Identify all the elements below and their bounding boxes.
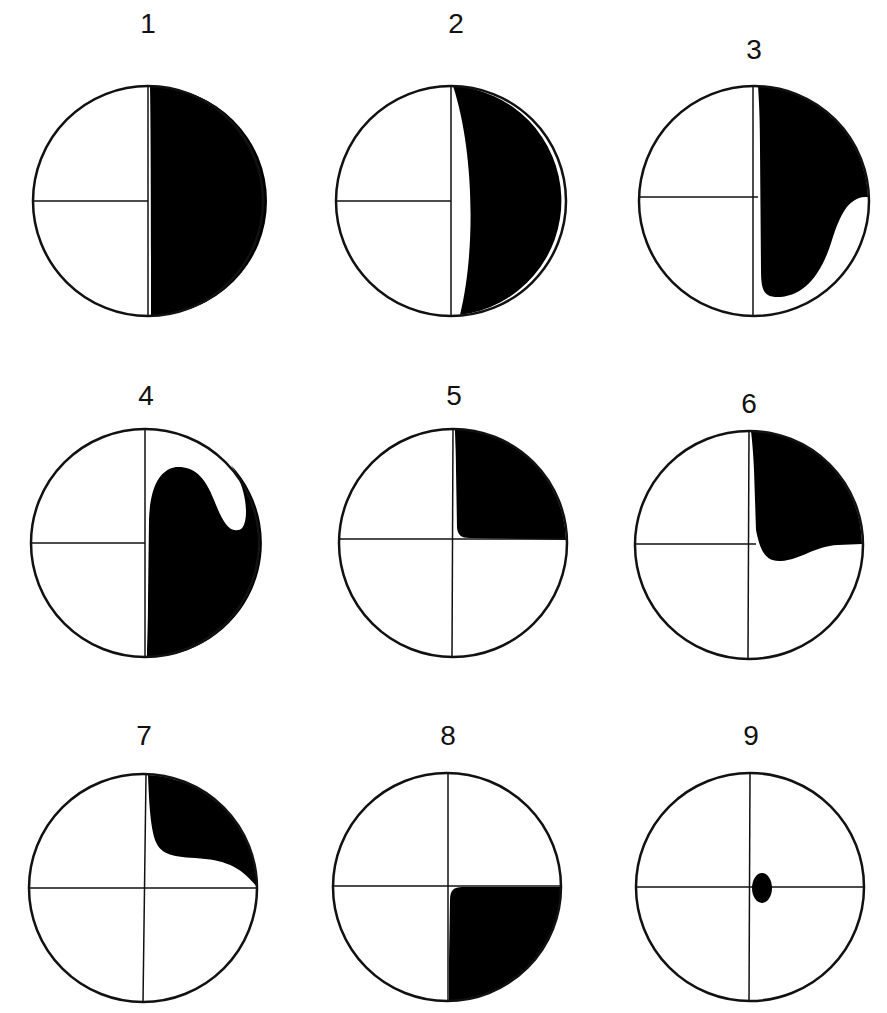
shaded-region: [453, 86, 561, 315]
panel-6: [634, 431, 863, 659]
shaded-region: [752, 873, 772, 903]
shaded-region: [152, 87, 267, 315]
panel-7: [29, 774, 257, 1002]
shaded-region: [751, 431, 862, 561]
shaded-region: [147, 465, 262, 657]
stereonet-diagram: [0, 0, 887, 1013]
panel-4: [31, 429, 262, 657]
vertical-axis: [452, 429, 453, 657]
vertical-axis: [748, 431, 749, 659]
panel-8: [333, 773, 561, 1001]
vertical-axis: [749, 773, 750, 1001]
panel-3: [639, 86, 869, 316]
panel-9: [636, 773, 864, 1001]
panel-2: [336, 86, 566, 316]
panel-1: [33, 86, 267, 316]
panel-5: [339, 429, 567, 657]
shaded-region: [758, 86, 868, 297]
